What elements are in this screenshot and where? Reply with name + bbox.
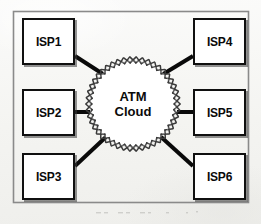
node-isp3-label: ISP3 — [36, 171, 61, 183]
node-isp5[interactable]: ISP5 — [193, 89, 246, 136]
diagram-canvas: ATM Cloud ISP1 ISP2 ISP3 ISP4 ISP5 ISP6 — [0, 0, 261, 224]
node-isp4-label: ISP4 — [207, 36, 232, 48]
node-isp2[interactable]: ISP2 — [22, 89, 75, 136]
atm-cloud-label: ATM Cloud — [89, 60, 177, 148]
node-isp2-label: ISP2 — [36, 107, 61, 119]
node-isp3[interactable]: ISP3 — [22, 153, 75, 200]
node-isp1-label: ISP1 — [36, 36, 61, 48]
node-isp6-label: ISP6 — [207, 171, 232, 183]
atm-cloud-label-line-1: ATM — [119, 89, 146, 104]
node-isp5-label: ISP5 — [207, 107, 232, 119]
node-isp1[interactable]: ISP1 — [22, 18, 75, 65]
node-isp6[interactable]: ISP6 — [193, 153, 246, 200]
atm-cloud-label-line-2: Cloud — [115, 104, 152, 119]
node-isp4[interactable]: ISP4 — [193, 18, 246, 65]
